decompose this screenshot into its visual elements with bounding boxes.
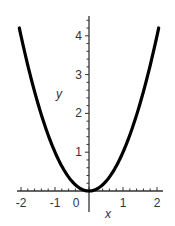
x-tick-label: 1: [120, 196, 127, 210]
y-axis-label: y: [55, 87, 63, 101]
x-tick-label: 2: [154, 196, 161, 210]
x-tick-label: 0: [73, 196, 80, 210]
x-tick-label: -1: [50, 196, 61, 210]
parabola-chart: -2-10121234 x y: [0, 0, 175, 226]
y-tick-label: 2: [75, 106, 82, 120]
axes: [17, 16, 163, 212]
y-tick-label: 1: [75, 145, 82, 159]
x-axis-label: x: [104, 207, 112, 221]
y-tick-label: 4: [75, 29, 82, 43]
y-tick-label: 3: [75, 68, 82, 82]
x-tick-label: -2: [16, 196, 27, 210]
